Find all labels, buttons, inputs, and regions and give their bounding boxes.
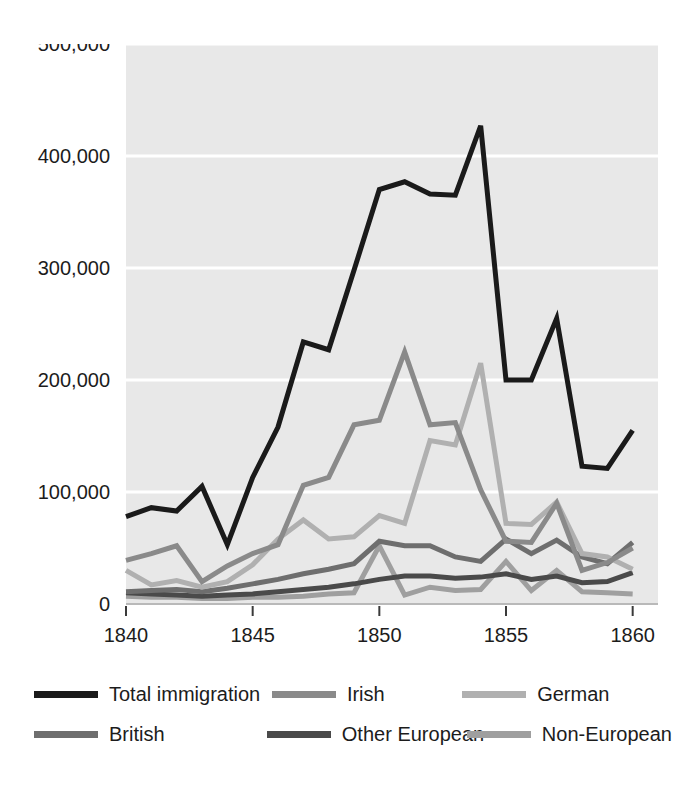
legend-item-british[interactable]: British	[34, 724, 267, 744]
ytick-label-0: 0	[99, 593, 110, 615]
legend-item-non-european[interactable]: Non-European	[467, 724, 681, 744]
legend-item-irish[interactable]: Irish	[272, 684, 462, 704]
xtick-label-4: 1860	[610, 624, 655, 646]
legend-label-total-immigration: Total immigration	[109, 684, 260, 704]
chart-plot-area: 0100,000200,000300,000400,000500,0001840…	[0, 0, 699, 660]
legend-item-german[interactable]: German	[462, 684, 681, 704]
legend-swatch-german	[462, 691, 526, 698]
legend-label-other-european: Other European	[342, 724, 484, 744]
xtick-label-3: 1855	[484, 624, 529, 646]
legend-label-irish: Irish	[347, 684, 385, 704]
legend-row-2: BritishOther EuropeanNon-European	[34, 714, 681, 754]
xtick-label-2: 1850	[357, 624, 402, 646]
xtick-label-1: 1845	[230, 624, 275, 646]
legend-swatch-other-european	[267, 731, 331, 738]
legend-row-1: Total immigrationIrishGerman	[34, 674, 681, 714]
ytick-label-2: 200,000	[38, 369, 110, 391]
immigration-line-chart-figure: 0100,000200,000300,000400,000500,0001840…	[0, 0, 699, 797]
ytick-label-1: 100,000	[38, 481, 110, 503]
chart-legend: Total immigrationIrishGermanBritishOther…	[0, 662, 699, 797]
legend-label-german: German	[537, 684, 609, 704]
legend-swatch-british	[34, 731, 98, 738]
ytick-label-4: 400,000	[38, 145, 110, 167]
legend-swatch-total-immigration	[34, 691, 98, 698]
legend-item-total-immigration[interactable]: Total immigration	[34, 684, 272, 704]
chart-svg: 0100,000200,000300,000400,000500,0001840…	[0, 0, 699, 660]
legend-swatch-irish	[272, 691, 336, 698]
xtick-label-0: 1840	[104, 624, 149, 646]
legend-item-other-european[interactable]: Other European	[267, 724, 467, 744]
ytick-label-3: 300,000	[38, 257, 110, 279]
legend-swatch-non-european	[467, 731, 531, 738]
top-mask	[0, 0, 699, 44]
legend-label-british: British	[109, 724, 165, 744]
legend-label-non-european: Non-European	[542, 724, 672, 744]
